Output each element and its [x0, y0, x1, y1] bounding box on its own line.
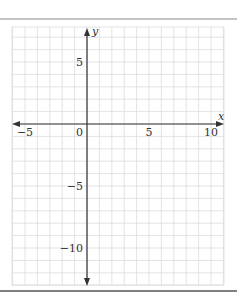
y-axis-up-arrow-icon	[84, 28, 90, 36]
grid-border	[12, 27, 224, 285]
axes	[12, 28, 224, 286]
axis-labels: xy−505105−5−10	[17, 25, 225, 255]
y-tick-label: −5	[67, 180, 83, 193]
y-axis-label: y	[91, 25, 99, 38]
x-tick-label: 0	[76, 126, 83, 139]
x-tick-label: 5	[146, 126, 153, 139]
x-tick-label: −5	[17, 126, 33, 139]
x-tick-label: 10	[204, 126, 218, 139]
x-axis-label: x	[218, 110, 225, 123]
grid-lines	[12, 27, 224, 285]
coordinate-plane: xy−505105−5−10	[0, 0, 237, 296]
coordinate-plane-figure: xy−505105−5−10	[0, 0, 237, 296]
y-tick-label: −10	[60, 242, 83, 255]
y-tick-label: 5	[76, 56, 83, 69]
